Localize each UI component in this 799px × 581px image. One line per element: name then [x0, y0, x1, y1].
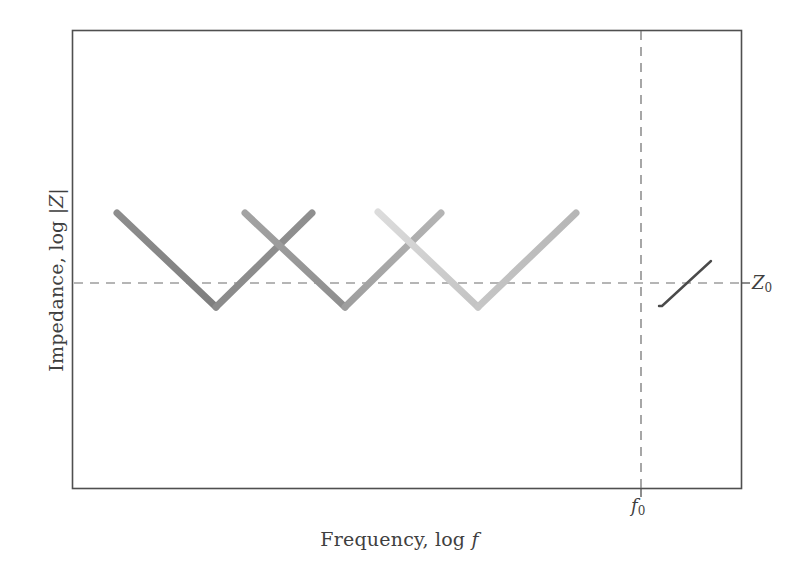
- y-axis-label-symbol: |Z|: [45, 188, 67, 214]
- resonance-segments: [117, 212, 576, 307]
- f0-symbol: f: [631, 495, 638, 516]
- x-axis-label-symbol: f: [471, 528, 478, 550]
- x-axis-label: Frequency, log f: [0, 528, 799, 550]
- f0-subscript: 0: [638, 504, 646, 518]
- impedance-plot: [0, 0, 799, 581]
- y-axis-label-lead: Impedance, log: [45, 214, 67, 371]
- y-axis-label: Impedance, log |Z|: [45, 80, 67, 480]
- resonance-segment-6: [478, 213, 576, 307]
- f0-axis-label: f0: [631, 495, 645, 518]
- x-axis-label-lead: Frequency, log: [320, 528, 471, 550]
- z0-symbol: Z: [752, 272, 765, 293]
- z0-axis-label: Z0: [752, 272, 772, 295]
- resonance-segment-1: [117, 213, 216, 307]
- impedance-frequency-figure: Frequency, log f Impedance, log |Z| f0 Z…: [0, 0, 799, 581]
- z0-subscript: 0: [765, 281, 773, 295]
